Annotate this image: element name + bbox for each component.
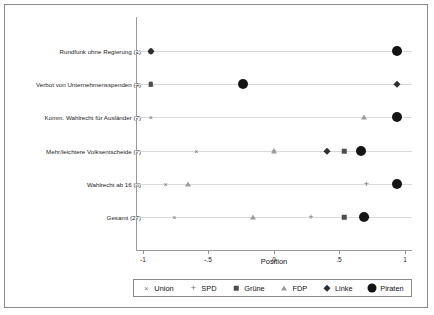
triangle-marker-icon [279, 283, 289, 293]
chart-figure: Rundfunk ohne Regierung (1) Verbot von U… [4, 4, 428, 308]
grid-line-row-1 [136, 84, 412, 85]
data-point-fdp-row-3 [271, 149, 277, 154]
data-point-piraten-row-2 [392, 112, 402, 122]
legend-label-piraten: Piraten [380, 284, 403, 293]
data-point-piraten-row-1 [238, 79, 248, 89]
x-tick-mark-4 [405, 250, 406, 254]
data-point-union-row-4: × [164, 181, 168, 188]
data-point-piraten-row-3 [356, 146, 366, 156]
diamond-marker-icon [322, 283, 332, 293]
y-axis-label-3: Mehr/leichtere Volksentscheide (7) [46, 148, 141, 155]
data-point-union-row-3: × [194, 148, 198, 155]
grid-line-row-2 [136, 117, 412, 118]
plot-area: -1 -.5 0 .5 1 ××××××++++++ [136, 17, 412, 250]
y-axis-label-2: Komm. Wahlrecht für Ausländer (7) [45, 114, 141, 121]
circle-marker-icon [367, 283, 377, 293]
plus-marker-icon: + [188, 283, 198, 293]
x-marker-icon: × [141, 283, 151, 293]
y-axis-label-4: Wahlrecht ab 16 (8) [87, 181, 141, 188]
data-point-piraten-row-4 [392, 179, 402, 189]
y-axis-label-0: Rundfunk ohne Regierung (1) [59, 48, 141, 55]
x-tick-mark-1 [208, 250, 209, 254]
data-point-fdp-row-5 [250, 215, 256, 220]
x-axis-title: Position [136, 257, 412, 266]
data-point-union-row-5: × [172, 214, 176, 221]
data-point-union-row-2: × [149, 114, 153, 121]
data-point-piraten-row-0 [392, 46, 402, 56]
data-point-spd-row-4: + [364, 180, 369, 189]
x-tick-mark-2 [274, 250, 275, 254]
data-point-grüne-row-1 [149, 82, 154, 87]
legend-entry-spd[interactable]: + SPD [188, 283, 216, 293]
legend-label-spd: SPD [201, 284, 216, 293]
legend-entry-union[interactable]: × Union [141, 283, 173, 293]
grid-line-row-4 [136, 184, 412, 185]
legend-label-fdp: FDP [292, 284, 307, 293]
y-axis-label-1: Verbot von Unternehmensspenden (4) [36, 81, 141, 88]
x-tick-mark-3 [339, 250, 340, 254]
x-tick-mark-0 [143, 250, 144, 254]
square-marker-icon [231, 283, 241, 293]
data-point-fdp-row-2 [361, 115, 367, 120]
data-point-grüne-row-5 [342, 215, 347, 220]
data-point-grüne-row-3 [342, 149, 347, 154]
data-point-linke-row-3 [324, 148, 330, 154]
legend-entry-linke[interactable]: Linke [322, 283, 353, 293]
legend-label-union: Union [154, 284, 173, 293]
legend-entry-fdp[interactable]: FDP [279, 283, 307, 293]
grid-line-row-0 [136, 51, 412, 52]
legend-label-gruene: Grüne [244, 284, 265, 293]
legend-label-linke: Linke [335, 284, 353, 293]
data-point-spd-row-5: + [308, 213, 313, 222]
data-point-fdp-row-4 [185, 182, 191, 187]
data-point-linke-row-1 [394, 81, 400, 87]
data-point-piraten-row-5 [359, 212, 369, 222]
grid-line-row-5 [136, 217, 412, 218]
legend-entry-piraten[interactable]: Piraten [367, 283, 403, 293]
legend-entry-gruene[interactable]: Grüne [231, 283, 265, 293]
chart-legend: × Union + SPD Grüne FDP Linke Piraten [133, 279, 412, 297]
